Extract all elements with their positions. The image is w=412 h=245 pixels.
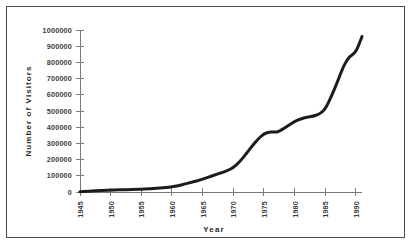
y-tick-label: 800000 <box>47 58 72 67</box>
chart-figure: 0100000200000300000400000500000600000700… <box>0 0 412 245</box>
x-tick-label: 1960 <box>168 201 177 218</box>
y-tick-label: 400000 <box>47 123 72 132</box>
x-tick-label: 1985 <box>321 201 330 218</box>
x-axis-title: Year <box>203 225 224 234</box>
x-tick-label: 1945 <box>76 201 85 218</box>
x-axis-tick-labels: 1945195019551960196519701975198019851990 <box>76 201 361 218</box>
x-tick-label: 1970 <box>229 201 238 218</box>
visitors-line-series <box>80 36 362 191</box>
y-tick-label: 300000 <box>47 139 72 148</box>
y-tick-label: 700000 <box>47 74 72 83</box>
y-axis-title: Number of Visitors <box>24 65 33 156</box>
x-tick-label: 1975 <box>260 201 269 218</box>
y-tick-label: 100000 <box>47 171 72 180</box>
y-tick-label: 900000 <box>47 42 72 51</box>
y-tick-label: 500000 <box>47 107 72 116</box>
x-tick-label: 1980 <box>291 201 300 218</box>
x-tick-label: 1950 <box>107 201 116 218</box>
y-axis-tick-labels: 0100000200000300000400000500000600000700… <box>43 26 72 197</box>
x-tick-label: 1965 <box>199 201 208 218</box>
x-tick-label: 1990 <box>352 201 361 218</box>
y-tick-label: 0 <box>68 188 72 197</box>
x-tick-label: 1955 <box>137 201 146 218</box>
y-tick-label: 1000000 <box>43 26 72 35</box>
line-chart-plot: 0100000200000300000400000500000600000700… <box>0 0 412 245</box>
y-tick-label: 600000 <box>47 90 72 99</box>
y-tick-label: 200000 <box>47 155 72 164</box>
